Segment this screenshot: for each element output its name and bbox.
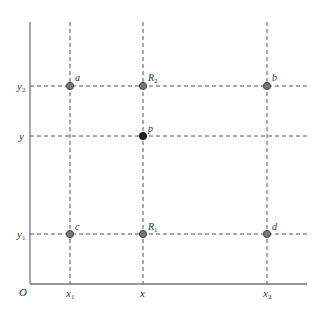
point-c xyxy=(66,230,73,237)
x-label-x1: x1 xyxy=(65,287,75,301)
label-a: a xyxy=(75,72,80,83)
label-r1: R1 xyxy=(147,221,158,234)
label-d: d xyxy=(272,221,278,232)
x-label-x2: x2 xyxy=(262,287,272,301)
point-p xyxy=(139,132,146,139)
point-d xyxy=(263,230,270,237)
x-label-x: x xyxy=(139,287,145,299)
point-r2 xyxy=(139,82,146,89)
label-c: c xyxy=(75,221,80,232)
label-p: p xyxy=(147,123,153,134)
y-label-y: y xyxy=(18,130,24,142)
origin-label: O xyxy=(19,286,27,298)
bilinear-interpolation-diagram: a R2 b p c R1 d y2 y y1 O x1 x x2 xyxy=(0,0,325,311)
y-label-y2: y2 xyxy=(16,80,26,94)
label-r2: R2 xyxy=(147,72,158,85)
y-label-y1: y1 xyxy=(16,228,26,242)
point-b xyxy=(263,82,270,89)
label-b: b xyxy=(272,72,277,83)
point-r1 xyxy=(139,230,146,237)
point-a xyxy=(66,82,73,89)
